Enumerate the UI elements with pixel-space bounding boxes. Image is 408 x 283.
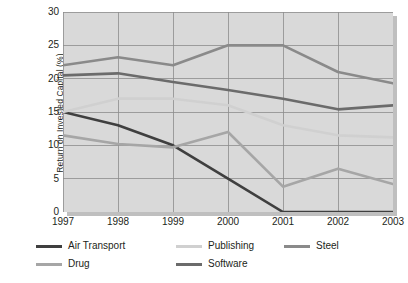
x-tick-label: 1999 xyxy=(151,216,195,228)
legend-swatch-icon xyxy=(36,263,62,266)
chart-svg xyxy=(63,12,393,212)
legend-item-software[interactable]: Software xyxy=(176,258,247,270)
x-tick-label: 2003 xyxy=(371,216,408,228)
x-axis-tick-labels: 1997199819992000200120022003 xyxy=(63,216,393,230)
legend-item-drug[interactable]: Drug xyxy=(36,258,90,270)
legend-item-publishing[interactable]: Publishing xyxy=(176,240,254,252)
y-tick-label: 5 xyxy=(37,174,59,184)
legend-swatch-icon xyxy=(284,245,310,248)
legend-swatch-icon xyxy=(176,245,202,248)
x-tick-label: 2000 xyxy=(206,216,250,228)
chart-legend: Air TransportPublishingSteelDrugSoftware xyxy=(36,240,376,280)
x-tick-label: 2001 xyxy=(261,216,305,228)
legend-swatch-icon xyxy=(176,263,202,266)
y-tick-label: 25 xyxy=(37,40,59,50)
legend-label: Air Transport xyxy=(68,240,125,252)
legend-label: Software xyxy=(208,258,247,270)
y-tick-label: 15 xyxy=(37,107,59,117)
plot-area xyxy=(63,12,393,212)
y-tick-label: 10 xyxy=(37,140,59,150)
y-tick-label: 20 xyxy=(37,74,59,84)
y-axis-tick-labels: 051015202530 xyxy=(33,12,59,212)
y-tick-label: 30 xyxy=(37,7,59,17)
legend-label: Steel xyxy=(316,240,339,252)
x-tick-label: 1998 xyxy=(96,216,140,228)
legend-swatch-icon xyxy=(36,245,62,248)
x-tick-label: 2002 xyxy=(316,216,360,228)
x-tick-label: 1997 xyxy=(41,216,85,228)
legend-item-steel[interactable]: Steel xyxy=(284,240,339,252)
legend-label: Publishing xyxy=(208,240,254,252)
legend-item-air-transport[interactable]: Air Transport xyxy=(36,240,125,252)
chart-root: Return on Invested Capital (%) 051015202… xyxy=(0,0,408,283)
legend-label: Drug xyxy=(68,258,90,270)
